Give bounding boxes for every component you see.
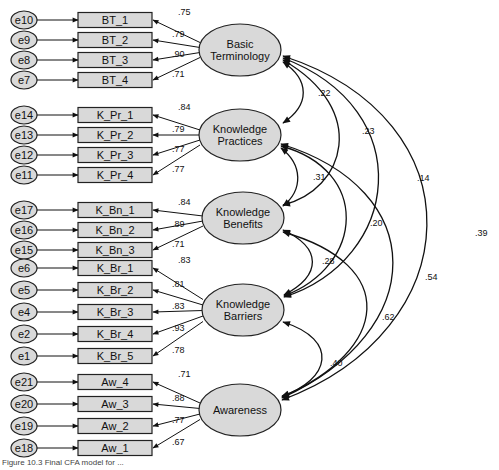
loading-K_Pr_3: .77 [153, 140, 200, 155]
error-term-e7: e7 [11, 71, 78, 89]
svg-text:Awareness: Awareness [213, 404, 268, 416]
error-term-e21: e21 [11, 373, 78, 391]
svg-text:K_Bn_2: K_Bn_2 [95, 224, 134, 236]
svg-text:Knowledge: Knowledge [213, 123, 267, 135]
indicator-K_Br_3: K_Br_3 [78, 305, 152, 320]
svg-text:e18: e18 [15, 442, 33, 454]
loading-BT_4: .71 [153, 58, 200, 81]
svg-text:e12: e12 [15, 149, 33, 161]
svg-text:e4: e4 [18, 306, 30, 318]
svg-text:.71: .71 [172, 69, 185, 79]
svg-text:Benefits: Benefits [223, 218, 263, 230]
svg-text:e21: e21 [15, 376, 33, 388]
svg-text:Knowledge: Knowledge [216, 206, 270, 218]
svg-text:.31: .31 [313, 172, 326, 182]
loading-K_Bn_3: .71 [153, 226, 203, 250]
error-term-e4: e4 [11, 303, 78, 321]
svg-text:.77: .77 [172, 415, 185, 425]
error-term-e12: e12 [11, 146, 78, 164]
error-term-e20: e20 [11, 395, 78, 413]
svg-text:.71: .71 [178, 369, 191, 379]
loading-K_Bn_1: .84 [153, 197, 203, 216]
latent-BT: BasicTerminology [199, 24, 281, 76]
svg-text:e7: e7 [18, 74, 30, 86]
svg-text:Knowledge: Knowledge [216, 298, 270, 310]
indicator-K_Br_2: K_Br_2 [78, 283, 152, 298]
latent-factors: BasicTerminologyKnowledgePracticesKnowle… [199, 24, 284, 436]
svg-text:.79: .79 [172, 29, 185, 39]
svg-text:.81: .81 [172, 279, 185, 289]
svg-text:K_Br_4: K_Br_4 [97, 328, 134, 340]
svg-text:.77: .77 [172, 164, 185, 174]
svg-text:K_Pr_2: K_Pr_2 [97, 129, 134, 141]
svg-text:.67: .67 [172, 437, 185, 447]
svg-text:e17: e17 [15, 204, 33, 216]
svg-text:BT_1: BT_1 [102, 14, 128, 26]
error-term-e15: e15 [11, 241, 78, 259]
svg-text:.20: .20 [370, 218, 383, 228]
error-term-e11: e11 [11, 166, 78, 184]
svg-text:K_Bn_3: K_Bn_3 [95, 244, 134, 256]
indicator-K_Pr_2: K_Pr_2 [78, 128, 152, 143]
error-terms: e10e9e8e7e14e13e12e11e17e16e15e6e5e4e2e1… [11, 11, 78, 457]
figure-caption: Figure 10.3 Final CFA model for ... [2, 458, 124, 467]
svg-text:BT_3: BT_3 [102, 54, 128, 66]
svg-text:e14: e14 [15, 109, 33, 121]
error-term-e14: e14 [11, 106, 78, 124]
svg-text:K_Br_3: K_Br_3 [97, 306, 134, 318]
error-term-e19: e19 [11, 417, 78, 435]
correlation-KPr-Aw: .54 [281, 144, 438, 398]
indicator-boxes: BT_1BT_2BT_3BT_4K_Pr_1K_Pr_2K_Pr_3K_Pr_4… [78, 13, 152, 456]
indicator-K_Bn_2: K_Bn_2 [78, 223, 152, 238]
svg-text:e6: e6 [18, 262, 30, 274]
error-term-e9: e9 [11, 31, 78, 49]
error-term-e16: e16 [11, 221, 78, 239]
svg-text:.39: .39 [475, 228, 488, 238]
indicator-K_Pr_4: K_Pr_4 [78, 168, 152, 183]
svg-text:e15: e15 [15, 244, 33, 256]
indicator-BT_3: BT_3 [78, 53, 152, 68]
indicator-K_Br_1: K_Br_1 [78, 261, 152, 276]
cfa-diagram: .22.23.14.39.31.20.54.28.62.40 .75.79.90… [0, 0, 499, 470]
svg-text:Aw_4: Aw_4 [101, 376, 128, 388]
svg-text:.77: .77 [172, 144, 185, 154]
svg-text:.79: .79 [172, 124, 185, 134]
svg-text:K_Pr_3: K_Pr_3 [97, 149, 134, 161]
svg-text:K_Br_1: K_Br_1 [97, 262, 134, 274]
indicator-K_Br_4: K_Br_4 [78, 327, 152, 342]
svg-text:e8: e8 [18, 54, 30, 66]
indicator-Aw_2: Aw_2 [78, 419, 152, 434]
indicator-K_Bn_3: K_Bn_3 [78, 243, 152, 258]
svg-text:.89: .89 [172, 219, 185, 229]
indicator-Aw_1: Aw_1 [78, 441, 152, 456]
svg-text:K_Pr_1: K_Pr_1 [97, 109, 134, 121]
loading-BT_2: .79 [153, 29, 200, 48]
indicator-BT_1: BT_1 [78, 13, 152, 28]
indicator-K_Pr_1: K_Pr_1 [78, 108, 152, 123]
latent-KBn: KnowledgeBenefits [202, 192, 284, 244]
loading-K_Pr_2: .79 [153, 124, 200, 135]
svg-text:.71: .71 [172, 239, 185, 249]
loading-BT_3: .90 [153, 49, 200, 60]
indicator-Aw_4: Aw_4 [78, 375, 152, 390]
error-term-e1: e1 [11, 347, 78, 365]
svg-text:Practices: Practices [217, 135, 263, 147]
svg-text:.93: .93 [172, 323, 185, 333]
latent-KPr: KnowledgePractices [199, 109, 281, 161]
svg-text:BT_4: BT_4 [102, 74, 128, 86]
error-term-e6: e6 [11, 259, 78, 277]
latent-KBr: KnowledgeBarriers [202, 284, 284, 336]
svg-text:e1: e1 [18, 350, 30, 362]
indicator-K_Br_5: K_Br_5 [78, 349, 152, 364]
svg-text:Aw_1: Aw_1 [101, 442, 128, 454]
correlation-KBn-KBr: .28 [283, 230, 335, 295]
svg-text:e2: e2 [18, 328, 30, 340]
svg-text:.54: .54 [425, 272, 438, 282]
svg-text:e13: e13 [15, 129, 33, 141]
svg-text:Aw_2: Aw_2 [101, 420, 128, 432]
error-term-e8: e8 [11, 51, 78, 69]
loading-paths: .75.79.90.71.84.79.77.77.84.89.71.83.81.… [153, 7, 203, 448]
indicator-Aw_3: Aw_3 [78, 397, 152, 412]
indicator-BT_2: BT_2 [78, 33, 152, 48]
svg-text:Terminology: Terminology [210, 50, 270, 62]
